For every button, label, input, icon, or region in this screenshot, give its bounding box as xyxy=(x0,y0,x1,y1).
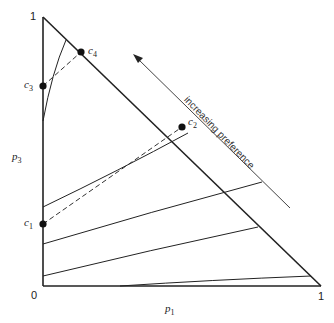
point-label-c2: c2 xyxy=(188,115,197,130)
origin-label: 0 xyxy=(31,289,37,301)
y-axis-label: p3 xyxy=(12,150,22,165)
indifference-curve xyxy=(43,133,188,207)
x-max-label: 1 xyxy=(318,290,324,302)
hypotenuse xyxy=(43,17,321,286)
y-max-label: 1 xyxy=(30,10,36,22)
indifference-curve xyxy=(120,276,311,286)
point-label-c4: c4 xyxy=(88,44,97,59)
point-c2 xyxy=(178,123,185,130)
point-label-c1: c1 xyxy=(24,216,33,231)
arrow-head-icon xyxy=(133,54,143,63)
point-c1 xyxy=(39,220,46,227)
x-axis-label: p1 xyxy=(165,302,175,317)
point-c3 xyxy=(39,82,46,89)
dashed-line-c3-c4 xyxy=(43,52,81,86)
point-c4 xyxy=(77,48,84,55)
point-label-c3: c3 xyxy=(24,78,33,93)
probability-triangle-diagram xyxy=(0,0,334,323)
indifference-curve xyxy=(43,40,66,121)
